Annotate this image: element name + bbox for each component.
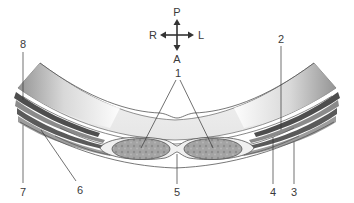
label-5: 5 [174, 186, 180, 198]
label-2: 2 [278, 33, 284, 45]
label-4: 4 [270, 186, 276, 198]
label-7: 7 [20, 186, 26, 198]
compass-label-posterior: P [173, 6, 180, 18]
compass-label-left: L [198, 29, 204, 41]
label-6: 6 [77, 184, 83, 196]
arrow-right-icon [188, 32, 194, 39]
muscle-right [184, 139, 242, 160]
label-8: 8 [20, 38, 26, 50]
arrow-up-icon [174, 19, 181, 25]
muscle-left [112, 139, 170, 160]
label-1: 1 [175, 67, 181, 79]
anatomical-cross-section-diagram: P A R L [0, 0, 354, 203]
arrow-down-icon [174, 45, 181, 51]
arrow-left-icon [160, 32, 166, 39]
orientation-compass: P A R L [149, 6, 204, 65]
compass-label-right: R [149, 29, 157, 41]
compass-label-anterior: A [173, 53, 181, 65]
label-3: 3 [291, 186, 297, 198]
